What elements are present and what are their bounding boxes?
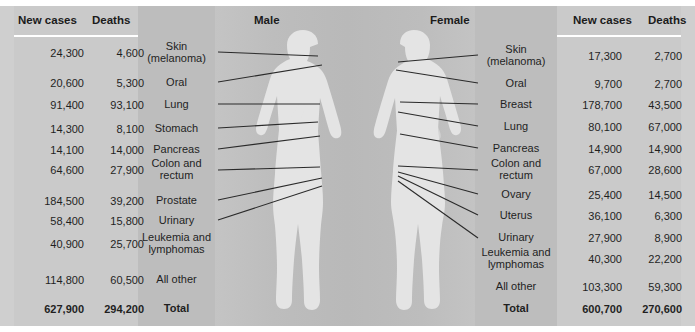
male-deaths-2: 93,100	[88, 99, 144, 111]
male-site-label-7: Urinary	[138, 215, 215, 227]
female-new-cases-8: 27,900	[560, 232, 622, 244]
female-site-label-10: All other	[475, 281, 557, 293]
female-total-deaths: 270,600	[626, 303, 682, 315]
male-deaths-9: 60,500	[88, 274, 144, 286]
male-new-cases-4: 14,100	[18, 144, 84, 156]
female-new-cases-2: 178,700	[560, 99, 622, 111]
male-site-label-0: Skin(melanoma)	[138, 41, 215, 64]
female-site-label-4: Pancreas	[475, 143, 557, 155]
male-new-cases-9: 114,800	[18, 274, 84, 286]
female-silhouette	[374, 30, 461, 310]
female-site-label-6: Ovary	[475, 189, 557, 201]
male-new-cases-6: 184,500	[18, 195, 84, 207]
header-left-new-cases: New cases	[18, 14, 77, 26]
female-deaths-1: 2,700	[626, 78, 682, 90]
male-deaths-4: 14,000	[88, 144, 144, 156]
female-deaths-2: 43,500	[626, 99, 682, 111]
female-new-cases-0: 17,300	[560, 50, 622, 62]
male-site-label-3: Stomach	[138, 123, 215, 135]
female-site-label-5: Colon andrectum	[475, 158, 557, 181]
female-deaths-6: 14,500	[626, 189, 682, 201]
male-new-cases-1: 20,600	[18, 77, 84, 89]
male-site-label-6: Prostate	[138, 195, 215, 207]
female-new-cases-10: 103,300	[560, 281, 622, 293]
header-left-deaths: Deaths	[92, 14, 130, 26]
male-site-label-9: All other	[138, 274, 215, 286]
male-total-new-cases: 627,900	[18, 303, 84, 315]
male-site-label-5: Colon andrectum	[138, 158, 215, 181]
female-new-cases-6: 25,400	[560, 189, 622, 201]
male-deaths-7: 15,800	[88, 215, 144, 227]
male-site-label-1: Oral	[138, 77, 215, 89]
female-new-cases-1: 9,700	[560, 78, 622, 90]
male-site-label-8: Leukemia andlymphomas	[138, 232, 215, 255]
female-site-label-8: Urinary	[475, 232, 557, 244]
male-new-cases-5: 64,600	[18, 164, 84, 176]
female-deaths-7: 6,300	[626, 210, 682, 222]
female-deaths-0: 2,700	[626, 50, 682, 62]
male-new-cases-0: 24,300	[18, 47, 84, 59]
male-total-label: Total	[138, 303, 215, 315]
female-site-label-1: Oral	[475, 78, 557, 90]
male-new-cases-8: 40,900	[18, 238, 84, 250]
male-site-label-2: Lung	[138, 99, 215, 111]
female-total-label: Total	[475, 303, 557, 315]
header-female-title: Female	[430, 14, 470, 26]
female-new-cases-5: 67,000	[560, 164, 622, 176]
female-new-cases-3: 80,100	[560, 121, 622, 133]
male-deaths-5: 27,900	[88, 164, 144, 176]
female-new-cases-7: 36,100	[560, 210, 622, 222]
female-deaths-10: 59,300	[626, 281, 682, 293]
female-new-cases-9: 40,300	[560, 253, 622, 265]
header-male-title: Male	[254, 14, 280, 26]
cancer-statistics-figure: New cases Deaths Male Female New cases D…	[0, 0, 695, 332]
female-deaths-3: 67,000	[626, 121, 682, 133]
male-deaths-1: 5,300	[88, 77, 144, 89]
header-right-new-cases: New cases	[573, 14, 632, 26]
female-site-label-7: Uterus	[475, 210, 557, 222]
female-site-label-3: Lung	[475, 121, 557, 133]
female-site-label-0: Skin(melanoma)	[475, 44, 557, 67]
male-deaths-6: 39,200	[88, 195, 144, 207]
male-deaths-8: 25,700	[88, 238, 144, 250]
female-deaths-8: 8,900	[626, 232, 682, 244]
female-deaths-5: 28,600	[626, 164, 682, 176]
male-new-cases-3: 14,300	[18, 123, 84, 135]
female-site-label-9: Leukemia andlymphomas	[475, 247, 557, 270]
male-deaths-0: 4,600	[88, 47, 144, 59]
female-total-new-cases: 600,700	[560, 303, 622, 315]
header-right-deaths: Deaths	[648, 14, 686, 26]
male-new-cases-2: 91,400	[18, 99, 84, 111]
female-new-cases-4: 14,900	[560, 143, 622, 155]
male-total-deaths: 294,200	[88, 303, 144, 315]
male-deaths-3: 8,100	[88, 123, 144, 135]
female-site-label-2: Breast	[475, 99, 557, 111]
male-site-label-4: Pancreas	[138, 144, 215, 156]
male-silhouette	[256, 30, 341, 310]
male-new-cases-7: 58,400	[18, 215, 84, 227]
female-deaths-9: 22,200	[626, 253, 682, 265]
female-deaths-4: 14,900	[626, 143, 682, 155]
